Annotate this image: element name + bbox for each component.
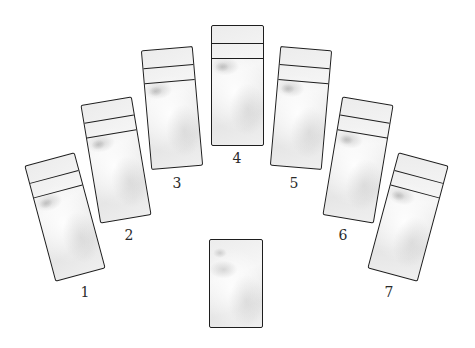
card-layer-divider bbox=[84, 114, 133, 123]
card-layer-divider bbox=[30, 170, 79, 184]
position-label-7: 7 bbox=[379, 285, 399, 299]
card-layer-divider bbox=[34, 184, 83, 198]
card-bottom-center bbox=[209, 239, 263, 328]
card-layer-divider bbox=[87, 129, 136, 138]
card-texture bbox=[280, 83, 295, 94]
card-texture bbox=[213, 248, 227, 258]
position-label-6: 6 bbox=[333, 228, 353, 242]
card-position-3 bbox=[141, 46, 203, 170]
card-texture bbox=[338, 134, 353, 146]
card-position-6 bbox=[322, 97, 393, 224]
position-label-1: 1 bbox=[75, 285, 95, 299]
position-label-2: 2 bbox=[119, 228, 139, 242]
card-layer-divider bbox=[143, 64, 193, 69]
card-texture bbox=[390, 189, 406, 202]
card-position-4 bbox=[211, 25, 264, 146]
card-texture bbox=[38, 197, 54, 210]
position-label-3: 3 bbox=[167, 176, 187, 190]
position-label-4: 4 bbox=[227, 151, 247, 165]
card-layer-divider bbox=[212, 43, 263, 44]
card-position-5 bbox=[270, 46, 332, 170]
card-layer-divider bbox=[280, 64, 330, 69]
card-layer-divider bbox=[212, 58, 263, 59]
card-position-2 bbox=[80, 97, 151, 224]
card-spread-diagram: 1 2 3 4 5 6 7 bbox=[0, 0, 475, 348]
card-layer-divider bbox=[340, 114, 389, 123]
position-label-5: 5 bbox=[284, 176, 304, 190]
card-layer-divider bbox=[145, 79, 195, 84]
card-texture bbox=[215, 62, 229, 72]
card-layer-divider bbox=[394, 170, 443, 184]
card-texture bbox=[91, 139, 106, 151]
card-texture bbox=[148, 86, 163, 97]
